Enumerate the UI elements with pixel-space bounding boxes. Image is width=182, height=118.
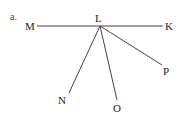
ray-LO: [100, 26, 117, 100]
label-L: L: [95, 12, 102, 24]
angle-diagram: a. L M K N O P: [0, 0, 182, 118]
label-M: M: [25, 20, 35, 32]
label-K: K: [165, 20, 173, 32]
label-O: O: [113, 102, 121, 114]
label-N: N: [58, 94, 66, 106]
label-P: P: [163, 65, 169, 77]
ray-LP: [100, 26, 162, 65]
ray-LN: [69, 26, 100, 93]
part-label: a.: [10, 11, 17, 22]
